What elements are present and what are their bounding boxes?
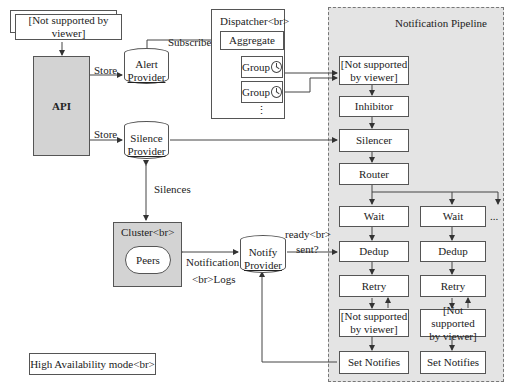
group-box-2: Group (241, 81, 283, 103)
wait-box-1: Wait (339, 206, 409, 227)
dedup-label: Dedup (359, 245, 388, 258)
dedup-box-1: Dedup (339, 241, 409, 262)
aggregate-label: Aggregate (229, 34, 275, 47)
group-box-1: Group (241, 56, 283, 78)
edge-label-ready-sent-2: sent? (296, 243, 319, 255)
unsupported-line-2: by viewer] (350, 323, 397, 336)
dedup-box-2: Dedup (420, 241, 486, 262)
wait-box-2: Wait (420, 206, 486, 227)
router-box: Router (339, 163, 409, 185)
wait-label: Wait (443, 210, 464, 223)
inhibitor-box: Inhibitor (339, 96, 409, 117)
retry-box-1: Retry (339, 275, 409, 297)
alert-provider-label-1: Alert (135, 58, 158, 71)
set-notifies-label: Set Notifies (427, 356, 479, 369)
peers-cloud: Peers (125, 246, 171, 274)
notify-provider-db: Notify Provider (240, 235, 286, 273)
set-notifies-label: Set Notifies (348, 356, 400, 369)
edge-label-subscribe: Subscribe (168, 36, 211, 48)
api-label: API (52, 100, 71, 113)
edge-label-ready-sent-1: ready<br> (285, 228, 331, 240)
silence-provider-label-2: Provider (128, 145, 166, 158)
ha-mode-label: High Availability mode<br> (29, 353, 156, 375)
silence-provider-db: Silence Provider (124, 121, 169, 159)
edge-label-notification-logs-1: Notification (186, 256, 239, 268)
first-stage-line-2: by viewer] (350, 71, 397, 84)
unsupported-box-1: [Not supported by viewer] (339, 309, 409, 337)
wait-label: Wait (364, 210, 385, 223)
notify-provider-label-1: Notify (249, 246, 278, 259)
silencer-label: Silencer (356, 134, 392, 147)
edge-label-notification-logs-2: <br>Logs (192, 273, 236, 285)
silence-provider-label-1: Silence (130, 132, 162, 145)
router-label: Router (359, 168, 389, 181)
first-stage-line-1: [Not supported (341, 58, 407, 71)
alert-provider-label-2: Provider (128, 71, 166, 84)
edge-label-store-silence: Store (94, 128, 117, 140)
api-box: API (33, 56, 90, 156)
unsupported-line-1: [Not supported (421, 304, 485, 330)
edge-label-silences: Silences (154, 183, 191, 195)
group-label: Group (242, 86, 270, 99)
dispatcher-title: Dispatcher<br> (220, 15, 289, 27)
unsupported-line-2: by viewer] (429, 330, 476, 343)
ha-mode-text: High Availability mode<br> (30, 358, 155, 371)
dispatcher-more: ⋮ (256, 104, 267, 116)
silencer-box: Silencer (339, 129, 409, 152)
unsupported-shape-top-left: [Not supported by viewer] (15, 14, 122, 40)
retry-label: Retry (362, 280, 386, 293)
unsupported-shape-label: [Not supported by viewer] (16, 14, 121, 40)
retry-label: Retry (441, 280, 465, 293)
clock-icon (271, 86, 282, 98)
unsupported-box-2: [Not supported by viewer] (420, 309, 486, 337)
set-notifies-box-1: Set Notifies (339, 351, 409, 374)
dedup-label: Dedup (438, 245, 467, 258)
clock-icon (271, 61, 282, 73)
inhibitor-label: Inhibitor (355, 100, 394, 113)
aggregate-box: Aggregate (220, 31, 284, 50)
alert-provider-db: Alert Provider (124, 48, 169, 84)
peers-label: Peers (136, 254, 160, 267)
pipeline-first-stage: [Not supported by viewer] (339, 56, 409, 85)
unsupported-line-1: [Not supported (341, 310, 407, 323)
notify-provider-label-2: Provider (244, 259, 282, 272)
branch-more: ... (490, 210, 498, 222)
group-label: Group (242, 61, 270, 74)
cluster-title: Cluster<br> (121, 226, 174, 238)
set-notifies-box-2: Set Notifies (420, 351, 486, 374)
retry-box-2: Retry (420, 275, 486, 297)
edge-label-store-alert: Store (94, 64, 117, 76)
